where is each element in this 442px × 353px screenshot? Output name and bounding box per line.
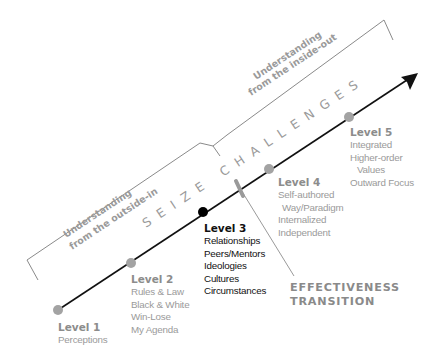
transition-line-2: TRANSITION	[290, 295, 400, 309]
level-item: Circumstances	[204, 285, 266, 298]
level-item: Higher-order	[350, 152, 414, 165]
level-item: Peers/Mentors	[204, 248, 266, 261]
level-title: Level 3	[204, 222, 266, 235]
level-title: Level 4	[278, 176, 343, 189]
level-item: Values	[350, 164, 414, 177]
level-3-label: Level 3 Relationships Peers/Mentors Ideo…	[204, 222, 266, 298]
effectiveness-transition-label: EFFECTIVENESS TRANSITION	[290, 281, 400, 309]
level-item: Independent	[278, 227, 343, 240]
level-item: Win-Lose	[131, 311, 189, 324]
level-title: Level 1	[58, 321, 108, 334]
level-1-label: Level 1 Perceptions	[58, 321, 108, 347]
level-1-dot	[53, 305, 63, 315]
level-item: Integrated	[350, 139, 414, 152]
level-item: Cultures	[204, 273, 266, 286]
level-item: Way/Paradigm	[278, 202, 343, 215]
level-4-dot	[264, 164, 274, 174]
level-item: Ideologies	[204, 260, 266, 273]
level-item: Rules & Law	[131, 286, 189, 299]
level-2-dot	[126, 258, 136, 268]
level-item: Internalized	[278, 214, 343, 227]
level-item: Perceptions	[58, 334, 108, 347]
level-3-dot	[198, 207, 208, 217]
level-5-label: Level 5 Integrated Higher-order Values O…	[350, 126, 414, 189]
level-4-label: Level 4 Self-authored Way/Paradigm Inter…	[278, 176, 343, 239]
level-item: Outward Focus	[350, 177, 414, 190]
level-item: My Agenda	[131, 324, 189, 337]
level-title: Level 5	[350, 126, 414, 139]
level-5-dot	[344, 112, 354, 122]
level-title: Level 2	[131, 273, 189, 286]
transition-line-1: EFFECTIVENESS	[290, 281, 400, 295]
level-item: Self-authored	[278, 189, 343, 202]
level-2-label: Level 2 Rules & Law Black & White Win-Lo…	[131, 273, 189, 336]
level-item: Relationships	[204, 235, 266, 248]
level-item: Black & White	[131, 299, 189, 312]
